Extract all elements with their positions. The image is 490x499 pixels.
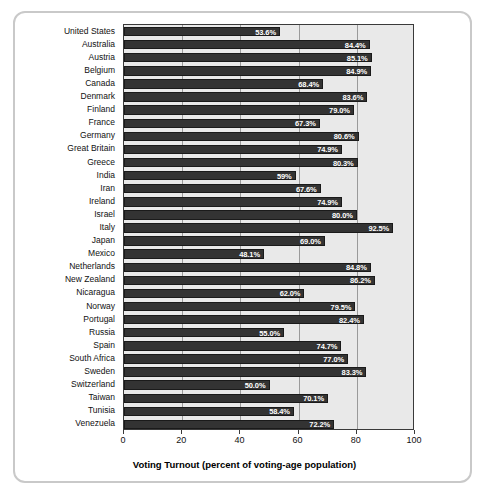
category-label: Greece [87, 157, 119, 167]
category-label: Germany [80, 130, 119, 140]
x-tick-label: 0 [120, 435, 125, 445]
bar[interactable]: 79.5% [124, 302, 355, 311]
x-tick-mark [239, 430, 240, 434]
bar[interactable]: 67.3% [124, 119, 320, 128]
bar[interactable]: 80.3% [124, 158, 358, 167]
bar-row: 48.1% [124, 249, 413, 258]
bar-value-label: 58.4% [269, 407, 290, 416]
x-tick-label: 40 [234, 435, 244, 445]
category-label: Israel [94, 209, 119, 219]
bar-row: 67.3% [124, 119, 413, 128]
bar[interactable]: 84.4% [124, 40, 370, 49]
category-label: South Africa [69, 353, 119, 363]
bar-row: 84.9% [124, 66, 413, 75]
bar[interactable]: 80.0% [124, 210, 357, 219]
bar[interactable]: 74.9% [124, 145, 342, 154]
x-tick-mark [123, 430, 124, 434]
bar[interactable]: 92.5% [124, 223, 393, 232]
category-label: Australia [82, 39, 119, 49]
bar-row: 74.9% [124, 145, 413, 154]
bar[interactable]: 50.0% [124, 380, 270, 389]
bar-row: 67.6% [124, 184, 413, 193]
bar[interactable]: 82.4% [124, 315, 364, 324]
bar[interactable]: 62.0% [124, 289, 304, 298]
bar-row: 50.0% [124, 380, 413, 389]
bar-value-label: 62.0% [280, 289, 301, 298]
bar-row: 69.0% [124, 236, 413, 245]
bar-value-label: 84.4% [345, 40, 366, 49]
category-label: Venezuela [75, 418, 119, 428]
x-tick-label: 100 [406, 435, 421, 445]
bar[interactable]: 83.3% [124, 367, 366, 376]
bar[interactable]: 68.4% [124, 79, 323, 88]
bar[interactable]: 67.6% [124, 184, 321, 193]
bar[interactable]: 80.6% [124, 132, 359, 141]
category-label: Norway [86, 301, 119, 311]
bar[interactable]: 79.0% [124, 105, 354, 114]
category-label: Ireland [89, 196, 119, 206]
bar[interactable]: 59% [124, 171, 296, 180]
bar-value-label: 68.4% [298, 79, 319, 88]
bar-row: 74.7% [124, 341, 413, 350]
bar-value-label: 69.0% [300, 237, 321, 246]
category-label: Japan [92, 235, 119, 245]
bar[interactable]: 74.9% [124, 197, 342, 206]
bar-row: 79.0% [124, 105, 413, 114]
bar-row: 80.0% [124, 210, 413, 219]
bar-value-label: 80.3% [333, 158, 354, 167]
bar-row: 83.6% [124, 92, 413, 101]
bar[interactable]: 70.1% [124, 394, 328, 403]
bar[interactable]: 69.0% [124, 236, 325, 245]
x-tick-label: 80 [351, 435, 361, 445]
bar-row: 79.5% [124, 302, 413, 311]
bar-value-label: 92.5% [368, 223, 389, 232]
category-label: India [97, 170, 119, 180]
bar-row: 86.2% [124, 276, 413, 285]
x-tick-label: 20 [176, 435, 186, 445]
category-label: France [89, 117, 119, 127]
bar[interactable]: 83.6% [124, 92, 367, 101]
bar-value-label: 79.5% [331, 302, 352, 311]
category-label: Switzerland [71, 379, 119, 389]
bar-value-label: 55.0% [259, 328, 280, 337]
category-label: New Zealand [65, 274, 119, 284]
bar[interactable]: 48.1% [124, 249, 264, 258]
bar[interactable]: 85.1% [124, 53, 372, 62]
bar-value-label: 83.6% [342, 93, 363, 102]
bar[interactable]: 77.0% [124, 354, 348, 363]
bar[interactable]: 72.2% [124, 420, 334, 429]
bar[interactable]: 58.4% [124, 407, 294, 416]
bar-value-label: 74.7% [317, 341, 338, 350]
bar[interactable]: 53.6% [124, 27, 280, 36]
bar-value-label: 77.0% [323, 354, 344, 363]
bar-row: 74.9% [124, 197, 413, 206]
bar[interactable]: 86.2% [124, 276, 375, 285]
bar-row: 53.6% [124, 27, 413, 36]
bar-value-label: 74.9% [317, 197, 338, 206]
category-label: Iran [100, 183, 119, 193]
category-label: Sweden [84, 366, 119, 376]
bar-value-label: 50.0% [245, 381, 266, 390]
category-label: Austria [89, 52, 119, 62]
category-label: Portugal [83, 314, 119, 324]
category-label: Canada [85, 78, 119, 88]
bar-series: 53.6%84.4%85.1%84.9%68.4%83.6%79.0%67.3%… [124, 25, 413, 429]
bar-row: 72.2% [124, 420, 413, 429]
bar[interactable]: 55.0% [124, 328, 284, 337]
bar-row: 80.3% [124, 158, 413, 167]
bar[interactable]: 84.8% [124, 263, 371, 272]
category-label: Netherlands [69, 261, 119, 271]
category-label: Nicaragua [76, 287, 119, 297]
bar-chart-figure: United StatesAustraliaAustriaBelgiumCana… [15, 13, 474, 485]
bar[interactable]: 84.9% [124, 66, 371, 75]
bar-row: 70.1% [124, 394, 413, 403]
bar[interactable]: 74.7% [124, 341, 341, 350]
x-tick-mark [298, 430, 299, 434]
bar-value-label: 80.0% [332, 210, 353, 219]
bar-value-label: 82.4% [339, 315, 360, 324]
chart-card: United StatesAustraliaAustriaBelgiumCana… [13, 11, 472, 483]
category-axis-labels: United StatesAustraliaAustriaBelgiumCana… [15, 24, 119, 430]
bar-row: 55.0% [124, 328, 413, 337]
bar-row: 62.0% [124, 289, 413, 298]
x-tick-mark [414, 430, 415, 434]
